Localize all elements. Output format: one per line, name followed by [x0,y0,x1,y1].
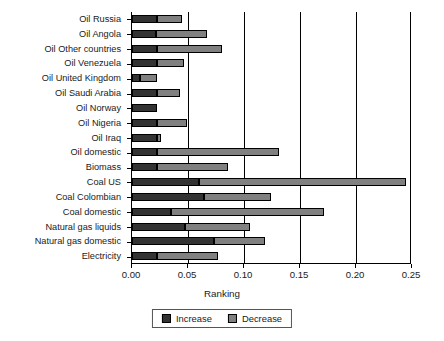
y-axis-label: Coal Colombian [56,190,121,205]
bar-row [132,12,410,27]
stacked-bar [132,178,406,186]
legend-label-increase: Increase [176,313,212,324]
bar-segment-decrease [157,59,184,67]
chart-legend: Increase Decrease [152,309,292,328]
x-axis-tick-label: 0.20 [346,269,365,280]
bar-segment-decrease [157,252,219,260]
bar-row [132,160,410,175]
x-axis-tick [355,264,356,268]
bar-segment-decrease [157,119,187,127]
x-axis-tick-label: 0.10 [234,269,253,280]
stacked-bar [132,104,157,112]
bar-row [132,71,410,86]
bar-row [132,190,410,205]
bar-row [132,220,410,235]
x-axis-tick [411,264,412,268]
bar-segment-increase [132,208,171,216]
bar-rows [132,12,410,263]
bar-row [132,101,410,116]
bar-segment-decrease [157,89,181,97]
y-axis-label: Oil Norway [76,101,121,116]
bar-row [132,175,410,190]
x-axis-tick-label: 0.15 [290,269,309,280]
y-axis-label: Oil United Kingdom [42,71,121,86]
bar-row [132,116,410,131]
bar-segment-decrease [140,74,157,82]
stacked-bar [132,252,218,260]
y-axis-label: Coal US [87,175,121,190]
y-axis-label: Oil Nigeria [78,116,121,131]
bar-row [132,86,410,101]
bar-segment-decrease [157,45,222,53]
y-axis-label: Oil Other countries [44,42,121,57]
stacked-bar [132,163,228,171]
bar-row [132,56,410,71]
bar-segment-increase [132,45,157,53]
bar-row [132,205,410,220]
y-axis-label: Oil Saudi Arabia [55,86,121,101]
legend-label-decrease: Decrease [242,313,282,324]
stacked-bar [132,119,187,127]
stacked-bar [132,59,184,67]
bar-segment-decrease [185,223,250,231]
stacked-bar [132,30,207,38]
bar-segment-decrease [156,30,208,38]
bar-segment-increase [132,59,157,67]
bar-segment-increase [132,178,199,186]
stacked-bar [132,148,279,156]
bar-segment-increase [132,104,157,112]
bar-segment-increase [132,89,157,97]
bar-segment-increase [132,223,185,231]
bar-segment-increase [132,119,157,127]
x-axis-tick [131,264,132,268]
bar-segment-increase [132,163,157,171]
bar-segment-decrease [157,134,161,142]
bar-segment-increase [132,252,157,260]
plot-area [131,12,411,264]
bar-row [132,234,410,249]
y-axis-category-labels: Oil RussiaOil AngolaOil Other countriesO… [0,12,127,264]
y-axis-label: Oil Venezuela [64,56,121,71]
bar-segment-increase [132,30,156,38]
y-axis-label: Oil domestic [70,145,121,160]
stacked-bar [132,15,182,23]
y-axis-label: Coal domestic [63,205,121,220]
bar-segment-increase [132,237,214,245]
bar-segment-decrease [157,163,229,171]
bar-segment-decrease [157,15,183,23]
bar-segment-decrease [214,237,266,245]
legend-swatch-decrease [228,314,237,323]
x-axis-tick [243,264,244,268]
stacked-bar [132,45,222,53]
x-axis-tick-labels: 0.000.050.100.150.200.25 [0,269,444,283]
bar-segment-increase [132,15,157,23]
y-axis-label: Electricity [82,249,121,264]
legend-swatch-increase [162,314,171,323]
stacked-bar [132,223,250,231]
stacked-bar [132,89,180,97]
y-axis-label: Oil Angola [79,27,121,42]
ranking-stacked-bar-chart: Oil RussiaOil AngolaOil Other countriesO… [0,0,444,341]
x-axis-title: Ranking [0,288,444,299]
bar-segment-decrease [157,148,279,156]
bar-segment-decrease [204,193,271,201]
bar-row [132,145,410,160]
bar-segment-increase [132,148,157,156]
stacked-bar [132,237,265,245]
legend-item-increase: Increase [162,313,212,324]
y-axis-label: Natural gas liquids [45,220,121,235]
bar-row [132,27,410,42]
bar-segment-increase [132,193,204,201]
y-axis-label: Biomass [86,160,121,175]
y-axis-label: Oil Iraq [91,131,121,146]
x-axis-tick-label: 0.00 [122,269,141,280]
x-axis-tick [299,264,300,268]
x-axis-tick-label: 0.25 [402,269,421,280]
bar-segment-increase [132,74,140,82]
y-axis-label: Natural gas domestic [35,234,121,249]
bar-row [132,131,410,146]
bar-segment-increase [132,134,157,142]
stacked-bar [132,134,161,142]
stacked-bar [132,208,324,216]
bar-segment-decrease [171,208,323,216]
